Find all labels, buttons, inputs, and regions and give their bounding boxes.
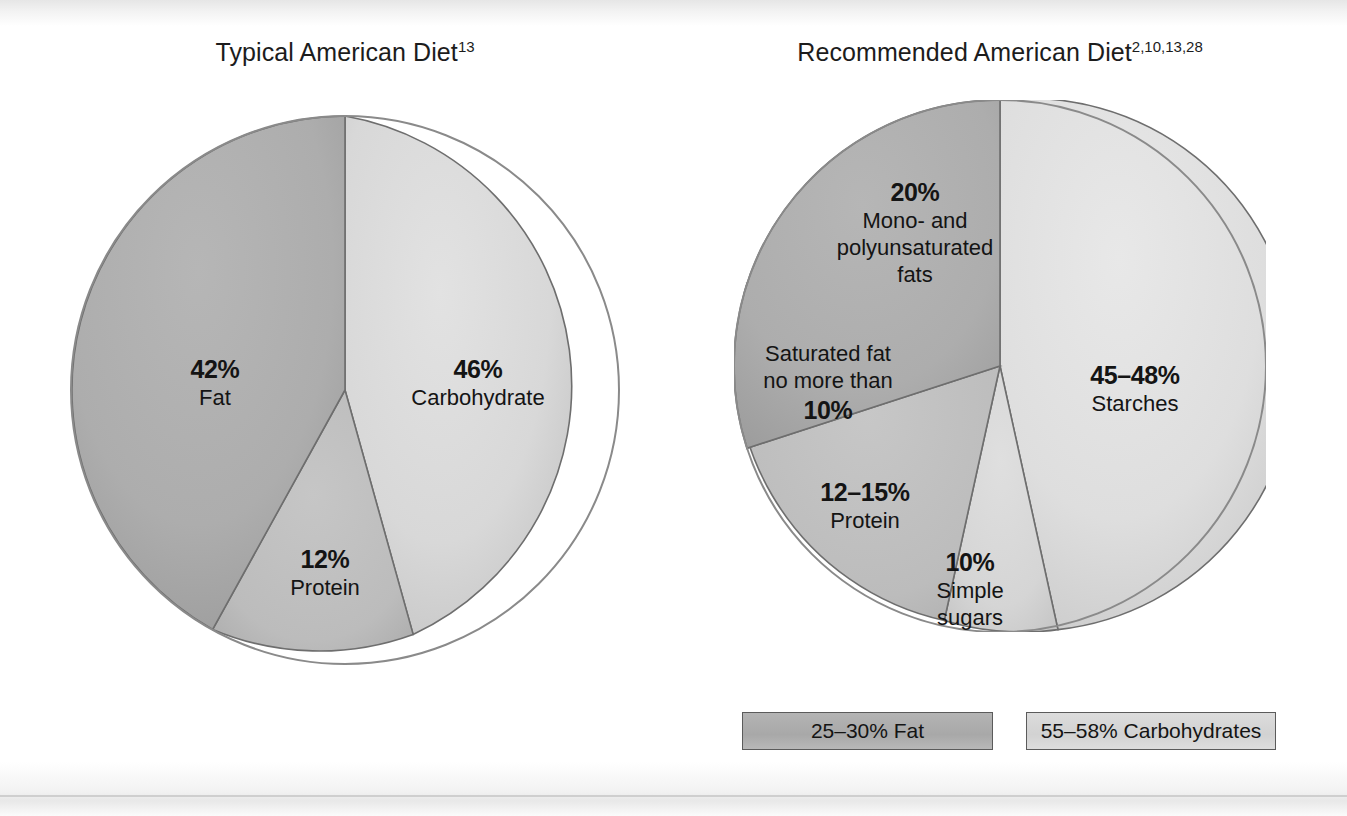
label-typical-fat-name: Fat — [120, 385, 310, 411]
legend-item-carbohydrates: 55–58% Carbohydrates — [1026, 712, 1276, 750]
label-recommended-starches-pct: 45–48% — [1030, 361, 1240, 390]
label-recommended-sugars-line2: sugars — [895, 605, 1045, 632]
label-typical-fat: 42% Fat — [120, 355, 310, 411]
label-typical-protein-name: Protein — [240, 575, 410, 601]
legend-item-fat: 25–30% Fat — [742, 712, 993, 750]
chart-title-typical-text: Typical American Diet — [215, 38, 457, 66]
label-recommended-protein: 12–15% Protein — [765, 478, 965, 534]
page-bottom-edge — [0, 762, 1347, 816]
label-recommended-unsaturated-line1: Mono- and — [800, 208, 1030, 235]
label-recommended-unsaturated-line3: fats — [800, 262, 1030, 289]
label-typical-carbohydrate-name: Carbohydrate — [368, 385, 588, 411]
label-typical-protein: 12% Protein — [240, 545, 410, 601]
label-typical-carbohydrate: 46% Carbohydrate — [368, 355, 588, 411]
label-recommended-unsaturated-pct: 20% — [800, 178, 1030, 207]
label-recommended-starches-name: Starches — [1030, 391, 1240, 417]
label-recommended-sugars-line1: Simple — [895, 578, 1045, 605]
label-recommended-saturated-line1: Saturated fat — [723, 341, 933, 368]
label-typical-protein-pct: 12% — [240, 545, 410, 574]
label-typical-carbohydrate-pct: 46% — [368, 355, 588, 384]
chart-title-recommended-superscript: 2,10,13,28 — [1132, 38, 1203, 55]
chart-title-typical: Typical American Diet13 — [125, 38, 565, 67]
legend-item-carbohydrates-label: 55–58% Carbohydrates — [1041, 719, 1262, 743]
label-recommended-saturated-line2: no more than — [723, 368, 933, 395]
label-recommended-protein-pct: 12–15% — [765, 478, 965, 507]
label-typical-fat-pct: 42% — [120, 355, 310, 384]
label-recommended-unsaturated-fats: 20% Mono- and polyunsaturated fats — [800, 178, 1030, 288]
label-recommended-sugars-pct: 10% — [895, 548, 1045, 577]
chart-title-recommended-text: Recommended American Diet — [797, 38, 1132, 66]
label-recommended-unsaturated-line2: polyunsaturated — [800, 235, 1030, 262]
label-recommended-saturated-pct: 10% — [723, 396, 933, 425]
label-recommended-saturated-fat: Saturated fat no more than 10% — [723, 341, 933, 425]
figure-canvas: Typical American Diet13 — [0, 0, 1347, 816]
label-recommended-simple-sugars: 10% Simple sugars — [895, 548, 1045, 632]
page-bottom-rule — [0, 795, 1347, 797]
legend-item-fat-label: 25–30% Fat — [811, 719, 924, 743]
chart-title-typical-superscript: 13 — [458, 38, 475, 55]
page-top-edge — [0, 0, 1347, 26]
chart-title-recommended: Recommended American Diet2,10,13,28 — [740, 38, 1260, 67]
label-recommended-protein-name: Protein — [765, 508, 965, 534]
label-recommended-starches: 45–48% Starches — [1030, 361, 1240, 417]
